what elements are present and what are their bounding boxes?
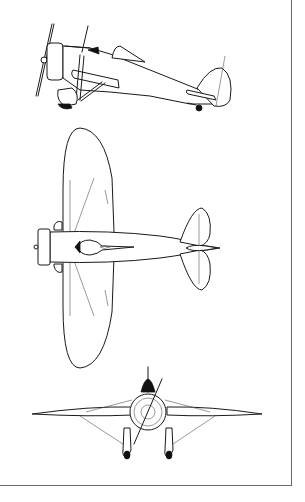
rudder-plan [186,245,218,250]
tailwheel [196,105,202,111]
brace-wire [170,416,215,446]
left-tire [124,451,130,459]
tailplane-upper [180,208,210,246]
spinner-plan [34,245,38,249]
tailplane-lower [180,250,210,290]
left-wing-front [32,407,132,416]
front-view [32,367,262,459]
wheel-pant-plan [54,264,62,272]
side-view [36,24,231,111]
wheel-pant-plan [54,222,62,231]
right-wing-front [167,407,262,416]
headrest-front [141,379,155,392]
plan-view [34,128,220,368]
right-tire [166,451,172,459]
cowling-plan [38,229,50,265]
propeller-hub [41,57,47,63]
wheel-pant [58,88,78,106]
engine-cowling [47,43,63,80]
tire [58,104,72,109]
brace-wire [80,416,126,446]
three-view-drawing [0,0,305,502]
